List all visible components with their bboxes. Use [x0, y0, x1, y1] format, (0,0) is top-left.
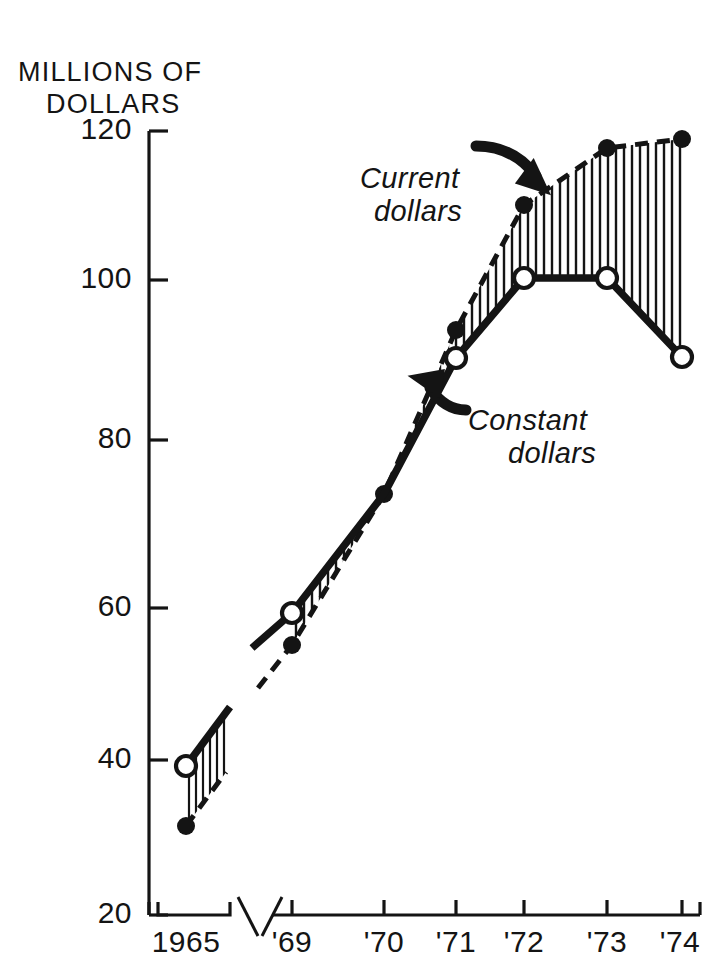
series-constant-dollars [176, 268, 692, 776]
annotation-constant-line-2: dollars [468, 437, 596, 469]
x-tick-label-74: '74 [640, 927, 712, 957]
x-tick-label-69: '69 [252, 927, 332, 957]
x-tick-label-1965: 1965 [131, 927, 241, 957]
chart-figure: MILLIONS OF DOLLARS [0, 0, 712, 980]
y-tick-label-80: 80 [42, 423, 132, 453]
y-tick-label-120: 120 [42, 114, 132, 144]
annotation-current-line-1: Current [360, 162, 460, 194]
constant-dollars-markers [176, 268, 692, 776]
annotation-current-line-2: dollars [360, 195, 462, 227]
annotation-constant-dollars: Constant dollars [468, 372, 596, 502]
annotation-constant-line-1: Constant [468, 404, 587, 436]
x-tick-label-73: '73 [567, 927, 647, 957]
y-tick-label-100: 100 [42, 263, 132, 293]
x-tick-label-70: '70 [344, 927, 424, 957]
y-axis [149, 131, 168, 915]
y-tick-label-20: 20 [42, 898, 132, 928]
annotation-current-dollars: Current dollars [360, 130, 462, 260]
y-tick-label-40: 40 [42, 743, 132, 773]
x-tick-label-72: '72 [484, 927, 564, 957]
y-tick-label-60: 60 [42, 591, 132, 621]
hatch-fill-main [296, 100, 680, 950]
plot-area [0, 0, 712, 980]
constant-dollars-arrow-icon [408, 369, 466, 410]
